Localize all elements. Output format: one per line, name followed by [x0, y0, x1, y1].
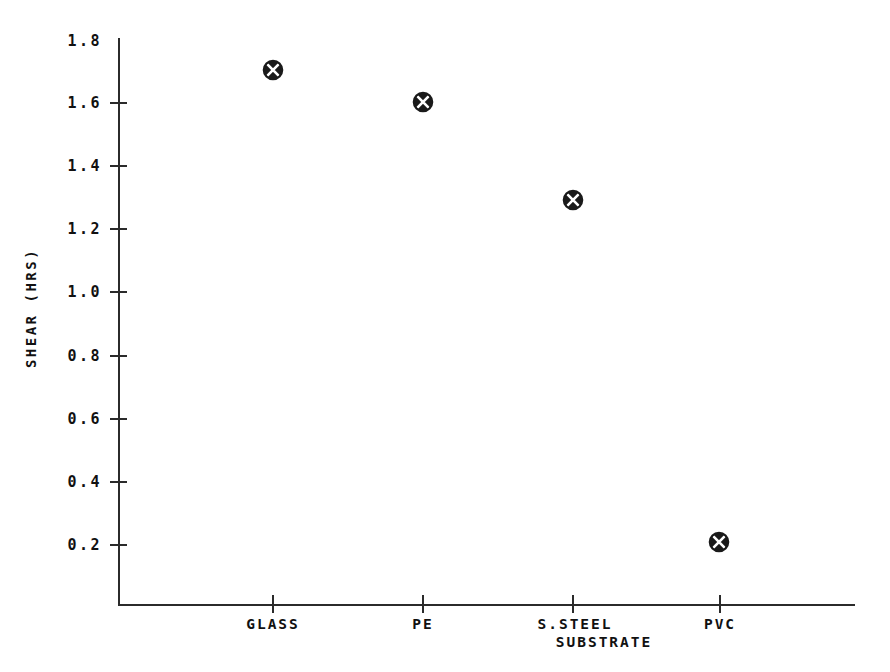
y-tick-label-0.2: 0.2 — [40, 536, 102, 554]
circled-cross-icon — [561, 188, 585, 212]
x-tick-label-pvc: PVC — [704, 616, 736, 632]
y-tick-0.2 — [110, 544, 127, 546]
y-tick-0.4 — [110, 481, 127, 483]
x-axis-title: SUBSTRATE — [556, 634, 653, 650]
data-point-glass[interactable] — [261, 58, 285, 82]
y-tick-label-0.4: 0.4 — [40, 473, 102, 491]
y-tick-label-1.2: 1.2 — [40, 220, 102, 238]
y-tick-1.2 — [110, 228, 127, 230]
y-axis-title: SHEAR (HRS) — [23, 233, 39, 383]
data-point-s-steel[interactable] — [561, 188, 585, 212]
x-axis-line — [118, 604, 855, 606]
y-tick-1.6 — [110, 102, 127, 104]
y-tick-label-1.6: 1.6 — [40, 94, 102, 112]
data-point-pvc[interactable] — [707, 530, 731, 554]
x-tick-label-pe: PE — [412, 616, 433, 632]
x-tick-label-s-steel: S.STEEL — [537, 616, 612, 632]
chart-figure: 1.8 1.6 1.4 1.2 1.0 0.8 0.6 0.4 0.2 — [0, 0, 890, 672]
y-tick-label-1.8: 1.8 — [40, 32, 102, 50]
circled-cross-icon — [261, 58, 285, 82]
x-tick-pe — [422, 595, 424, 613]
y-tick-label-0.8: 0.8 — [40, 347, 102, 365]
y-tick-0.8 — [110, 355, 127, 357]
y-tick-1.0 — [110, 291, 127, 293]
y-tick-1.4 — [110, 165, 127, 167]
circled-cross-icon — [707, 530, 731, 554]
y-axis-line — [118, 38, 120, 606]
y-tick-label-1.0: 1.0 — [40, 283, 102, 301]
x-tick-glass — [272, 595, 274, 613]
y-tick-0.6 — [110, 418, 127, 420]
circled-cross-icon — [411, 90, 435, 114]
x-tick-s-steel — [572, 595, 574, 613]
y-tick-label-1.4: 1.4 — [40, 157, 102, 175]
plot-area: 1.8 1.6 1.4 1.2 1.0 0.8 0.6 0.4 0.2 — [0, 0, 890, 672]
x-tick-label-glass: GLASS — [246, 616, 300, 632]
y-tick-label-0.6: 0.6 — [40, 410, 102, 428]
data-point-pe[interactable] — [411, 90, 435, 114]
x-tick-pvc — [719, 595, 721, 613]
